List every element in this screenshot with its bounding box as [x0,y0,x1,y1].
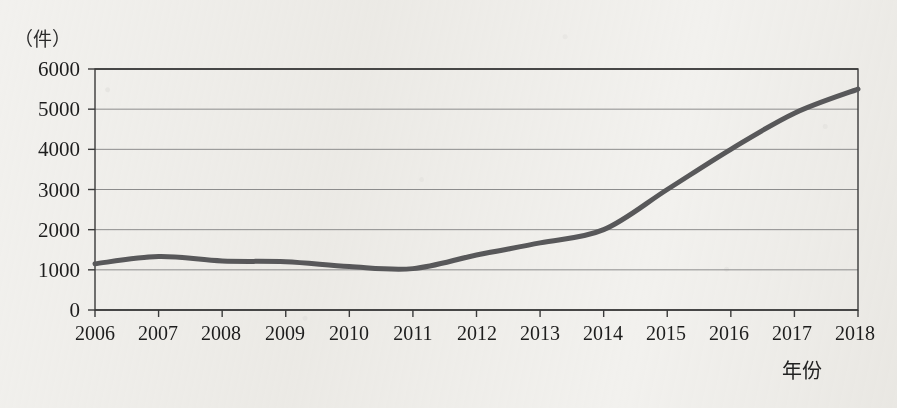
data-series-line [95,89,858,269]
plot-area [0,0,897,408]
x-tick-marks-group [95,310,858,317]
line-chart: （件） 6000 5000 4000 3000 2000 1000 0 2006… [0,0,897,408]
gridlines-group [88,69,858,310]
